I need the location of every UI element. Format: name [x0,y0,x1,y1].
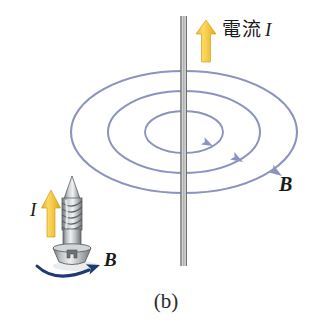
current-label-symbol: I [261,19,272,40]
b-field-label: B [279,174,292,194]
current-direction-arrow [196,20,216,62]
current-label: 電流I [222,20,272,39]
panel-label: (b) [0,291,332,312]
physics-figure-panel-b: 電流I B I B (b) [0,0,332,333]
figure-canvas [0,0,332,333]
screw-tip [64,176,81,200]
current-carrying-wire [181,16,188,266]
current-label-text: 電流 [222,19,261,40]
screw-current-label: I [30,200,36,219]
screw-threads [62,198,82,230]
screw-current-arrow [42,190,61,237]
screw-illustration [53,176,99,271]
screw-b-label: B [104,250,117,269]
